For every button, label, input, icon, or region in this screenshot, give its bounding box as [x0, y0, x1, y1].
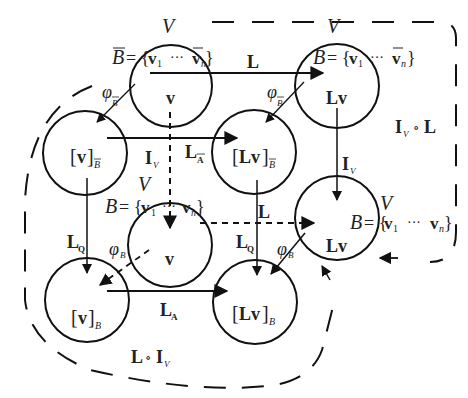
svg-text:v: v [141, 198, 150, 217]
edge-label-L-top: L [247, 52, 259, 72]
svg-text:B: B [350, 211, 362, 233]
svg-text:∘: ∘ [145, 350, 151, 365]
c1-basis-label: B = { v 1 ··· v n } [112, 46, 214, 69]
svg-text:}: } [444, 213, 453, 233]
c5-basis-label: B = { v 1 ··· v n } [105, 195, 205, 218]
svg-text:B: B [120, 250, 126, 260]
svg-text:I: I [395, 117, 402, 137]
svg-text:I: I [156, 347, 163, 367]
svg-text:B: B [269, 316, 275, 327]
svg-text:[: [ [70, 145, 77, 167]
c7-node-label: [ v ] B [71, 306, 101, 331]
svg-text:···: ··· [162, 199, 176, 214]
svg-text:V: V [164, 359, 171, 369]
svg-text:n: n [401, 58, 406, 69]
c6-basis-label: B = { v 1 ··· v n } [350, 211, 453, 234]
svg-text:v: v [78, 308, 87, 328]
edge-label-LQ-left: L Q [67, 232, 85, 254]
svg-text:B: B [288, 250, 294, 260]
node-c8 [213, 260, 297, 344]
svg-text:]: ] [88, 306, 95, 328]
svg-text:∘: ∘ [413, 120, 419, 135]
edge-label-phi-c5-c7: φ B [109, 239, 126, 260]
svg-text:L: L [185, 142, 197, 162]
region-lower-left-arrow [322, 266, 330, 280]
svg-text:B: B [105, 195, 117, 217]
region-label-IV-circ-L: I V ∘ L [395, 117, 436, 139]
svg-text:]: ] [87, 145, 94, 167]
c5-node-label: v [165, 249, 174, 269]
edge-label-IV-dashed: I V [145, 148, 160, 170]
svg-text:Q: Q [247, 244, 254, 254]
svg-text:[: [ [71, 306, 78, 328]
svg-text:[: [ [232, 302, 239, 324]
svg-text:Lv: Lv [239, 304, 260, 324]
edge-label-L-Abar: L A [185, 142, 205, 165]
diagram-canvas: V B = { v 1 ··· v n } v V B = { v 1 ··· … [0, 0, 468, 398]
svg-text:= {: = { [119, 197, 142, 217]
svg-text:1: 1 [393, 223, 398, 234]
svg-text:v: v [392, 49, 401, 68]
commutative-diagram: V B = { v 1 ··· v n } v V B = { v 1 ··· … [0, 0, 468, 398]
c3-node-label: [ v ] B [70, 145, 101, 170]
svg-text:Lv: Lv [239, 147, 260, 167]
svg-text:1: 1 [157, 58, 162, 69]
svg-text:}: } [407, 48, 416, 68]
edge-label-IV-solid: I V [342, 154, 357, 176]
svg-text:···: ··· [407, 215, 421, 230]
c1-node-label: v [166, 88, 175, 108]
svg-text:B: B [313, 46, 325, 68]
svg-text:B: B [112, 46, 124, 68]
edge-label-LA: L A [160, 300, 178, 322]
svg-text:}: } [205, 48, 214, 68]
svg-text:v: v [148, 49, 157, 68]
svg-text:φ: φ [102, 82, 112, 102]
c2-basis-label: B = { v 1 ··· v n } [313, 46, 416, 69]
edge-label-phi-c6-c8: φ B [277, 239, 294, 260]
svg-text:]: ] [262, 302, 269, 324]
svg-text:[: [ [232, 145, 239, 167]
svg-text:L: L [424, 117, 436, 137]
svg-text:V: V [153, 160, 160, 170]
svg-text:v: v [430, 214, 439, 233]
c1-space-label: V [162, 15, 177, 37]
svg-text:1: 1 [151, 207, 156, 218]
svg-text:V: V [350, 166, 357, 176]
svg-text:L: L [131, 347, 143, 367]
c6-space-label: V [380, 192, 395, 214]
svg-text:}: } [196, 197, 205, 217]
region-label-L-circ-IV: L ∘ I V [131, 347, 171, 369]
svg-text:v: v [77, 147, 86, 167]
svg-text:B: B [95, 320, 101, 331]
svg-text:1: 1 [358, 58, 363, 69]
svg-text:Q: Q [78, 244, 85, 254]
svg-text:v: v [192, 49, 201, 68]
svg-text:φ: φ [109, 239, 119, 259]
c4-node-label: [ Lv ] B [232, 145, 276, 170]
svg-text:B: B [269, 159, 275, 170]
svg-text:I: I [342, 154, 349, 174]
svg-text:]: ] [262, 145, 269, 167]
edge-label-phi-c2-c4: φ B [267, 82, 284, 108]
svg-text:B: B [277, 98, 283, 108]
c2-node-label: Lv [326, 88, 347, 108]
svg-text:φ: φ [267, 82, 277, 102]
svg-text:B: B [94, 159, 100, 170]
svg-text:v: v [182, 198, 191, 217]
svg-text:v: v [384, 214, 393, 233]
c6-node-label: Lv [326, 236, 347, 256]
svg-text:B: B [112, 98, 118, 108]
c5-space-label: V [138, 173, 153, 195]
svg-text:A: A [197, 155, 204, 165]
svg-text:I: I [145, 148, 152, 168]
c8-node-label: [ Lv ] B [232, 302, 275, 327]
svg-text:= {: = { [327, 48, 350, 68]
svg-text:= {: = { [126, 48, 149, 68]
svg-text:φ: φ [277, 239, 287, 259]
svg-text:···: ··· [370, 50, 384, 65]
edge-label-phi-c1-c3: φ B [102, 82, 119, 108]
svg-text:A: A [171, 312, 178, 322]
svg-text:···: ··· [170, 50, 184, 65]
c2-space-label: V [327, 15, 342, 37]
edge-label-L-middle: L [258, 202, 270, 222]
